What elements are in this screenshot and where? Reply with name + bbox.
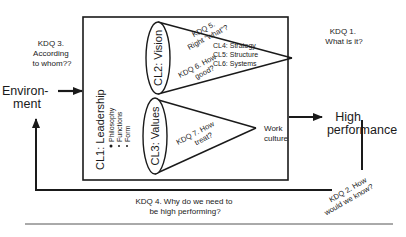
high-performance-line2: performance <box>327 123 397 137</box>
environment-label: Environ- ment <box>2 84 52 111</box>
kdq3-label: KDQ 3. According to whom?? <box>32 39 72 68</box>
cl3-values-label: CL3: Values <box>149 106 161 166</box>
svg-text:Philosophy: Philosophy <box>108 107 116 142</box>
high-performance-line1: High <box>335 110 361 124</box>
kdq4-label: KDQ 4. Why do we need to be high perform… <box>135 197 234 216</box>
work-culture-label: Work culture <box>264 124 289 143</box>
kdq2-label: KDQ 2. How would we know? <box>317 174 375 218</box>
leadership-diagram: Environ- ment High High performance KDQ … <box>0 0 406 237</box>
cl4-6-list: CL4: Strategy CL5: Structure CL6: System… <box>213 42 260 68</box>
svg-text:Form: Form <box>124 126 131 143</box>
cl2-vision-label: CL2: Vision <box>152 30 164 86</box>
kdq7-label: KDQ 7. How treat? <box>175 119 221 155</box>
kdq1-label: KDQ 1. What is it? <box>325 27 363 46</box>
svg-text:Functions: Functions <box>116 111 123 142</box>
cl1-leadership: CL1: Leadership Philosophy Functions For… <box>94 89 131 170</box>
svg-text:CL1: Leadership: CL1: Leadership <box>94 89 106 170</box>
